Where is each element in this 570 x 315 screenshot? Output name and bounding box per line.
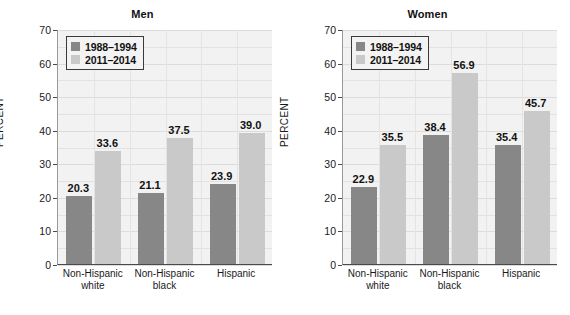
y-axis-tick-mark bbox=[338, 164, 342, 165]
y-axis-tick-label: 40 bbox=[290, 125, 336, 136]
y-axis-tick-label: 20 bbox=[5, 193, 51, 204]
legend-item[interactable]: 1988–1994 bbox=[71, 40, 137, 53]
y-axis-tick-label: 0 bbox=[5, 260, 51, 271]
legend-item-label: 2011–2014 bbox=[370, 54, 421, 66]
y-axis-tick-mark bbox=[338, 231, 342, 232]
bar-value-label: 37.5 bbox=[168, 124, 189, 136]
y-axis-tick-label: 70 bbox=[5, 25, 51, 36]
panel-title: Men bbox=[0, 8, 285, 20]
category-label-line2: black bbox=[419, 280, 479, 292]
y-axis-tick-mark bbox=[53, 231, 57, 232]
y-axis-tick-mark bbox=[53, 265, 57, 266]
bar bbox=[66, 196, 92, 264]
legend-item[interactable]: 2011–2014 bbox=[356, 53, 422, 66]
bar bbox=[167, 138, 193, 264]
y-axis-tick-label: 70 bbox=[290, 25, 336, 36]
legend-swatch-icon bbox=[356, 42, 365, 51]
chart-figure: Men PERCENT 010203040506070Non-Hispanicw… bbox=[0, 0, 570, 315]
gridline-horizontal bbox=[343, 265, 557, 266]
y-axis-tick-label: 10 bbox=[5, 226, 51, 237]
bar bbox=[351, 187, 377, 264]
bar-value-label: 38.4 bbox=[424, 121, 445, 133]
bar-value-label: 56.9 bbox=[453, 59, 474, 71]
y-axis-tick-label: 50 bbox=[5, 92, 51, 103]
y-axis-tick-mark bbox=[53, 198, 57, 199]
y-axis-title: PERCENT bbox=[0, 96, 5, 147]
y-axis-tick-mark bbox=[53, 131, 57, 132]
y-axis-tick-mark bbox=[338, 30, 342, 31]
chart-legend: 1988–19942011–2014 bbox=[351, 36, 429, 70]
y-axis-tick-mark bbox=[338, 198, 342, 199]
bar-value-label: 20.3 bbox=[68, 182, 89, 194]
bar bbox=[380, 145, 406, 264]
y-axis-tick-label: 0 bbox=[290, 260, 336, 271]
gridline-vertical bbox=[201, 30, 202, 264]
y-axis-tick-mark bbox=[338, 97, 342, 98]
category-label-line1: Non-Hispanic bbox=[63, 268, 123, 280]
category-label-line2: white bbox=[348, 280, 408, 292]
x-axis-category-label: Non-Hispanicwhite bbox=[348, 268, 408, 292]
chart-panel-men: Men PERCENT 010203040506070Non-Hispanicw… bbox=[0, 0, 285, 315]
category-label-line1: Non-Hispanic bbox=[134, 268, 194, 280]
y-axis-tick-label: 60 bbox=[5, 58, 51, 69]
legend-item[interactable]: 1988–1994 bbox=[356, 40, 422, 53]
x-axis-category-label: Hispanic bbox=[217, 268, 255, 280]
y-axis-tick-label: 40 bbox=[5, 125, 51, 136]
chart-legend: 1988–19942011–2014 bbox=[66, 36, 144, 70]
y-axis-tick-label: 30 bbox=[290, 159, 336, 170]
x-axis-category-label: Non-Hispanicwhite bbox=[63, 268, 123, 292]
bar-value-label: 39.0 bbox=[240, 119, 261, 131]
bar-value-label: 21.1 bbox=[139, 179, 160, 191]
category-label-line1: Hispanic bbox=[502, 268, 540, 280]
legend-item[interactable]: 2011–2014 bbox=[71, 53, 137, 66]
bar bbox=[95, 151, 121, 264]
category-label-line1: Non-Hispanic bbox=[348, 268, 408, 280]
y-axis-tick-label: 60 bbox=[290, 58, 336, 69]
y-axis-tick-mark bbox=[53, 97, 57, 98]
y-axis-tick-label: 50 bbox=[290, 92, 336, 103]
category-label-line1: Hispanic bbox=[217, 268, 255, 280]
bar bbox=[452, 73, 478, 264]
bar-value-label: 35.5 bbox=[382, 131, 403, 143]
legend-swatch-icon bbox=[71, 42, 80, 51]
bar bbox=[138, 193, 164, 264]
category-label-line2: black bbox=[134, 280, 194, 292]
y-axis-tick-mark bbox=[53, 164, 57, 165]
bar bbox=[495, 145, 521, 264]
bar-value-label: 33.6 bbox=[97, 137, 118, 149]
y-axis-tick-mark bbox=[53, 64, 57, 65]
bar bbox=[423, 135, 449, 264]
legend-item-label: 1988–1994 bbox=[370, 41, 422, 53]
bar bbox=[239, 133, 265, 264]
bar-value-label: 35.4 bbox=[496, 131, 517, 143]
x-axis-category-label: Non-Hispanicblack bbox=[134, 268, 194, 292]
y-axis-tick-label: 10 bbox=[290, 226, 336, 237]
y-axis-tick-label: 30 bbox=[5, 159, 51, 170]
gridline-horizontal bbox=[58, 265, 272, 266]
legend-swatch-icon bbox=[71, 55, 80, 64]
bar-value-label: 22.9 bbox=[353, 173, 374, 185]
y-axis-title: PERCENT bbox=[279, 96, 290, 147]
x-axis-category-label: Hispanic bbox=[502, 268, 540, 280]
category-label-line1: Non-Hispanic bbox=[419, 268, 479, 280]
legend-item-label: 2011–2014 bbox=[85, 54, 136, 66]
y-axis-tick-mark bbox=[338, 64, 342, 65]
y-axis-tick-mark bbox=[53, 30, 57, 31]
y-axis-tick-label: 20 bbox=[290, 193, 336, 204]
legend-swatch-icon bbox=[356, 55, 365, 64]
bar bbox=[210, 184, 236, 264]
panel-title: Women bbox=[285, 8, 570, 20]
category-label-line2: white bbox=[63, 280, 123, 292]
y-axis-tick-mark bbox=[338, 265, 342, 266]
y-axis-tick-mark bbox=[338, 131, 342, 132]
bar-value-label: 23.9 bbox=[211, 170, 232, 182]
bar-value-label: 45.7 bbox=[525, 97, 546, 109]
bar bbox=[524, 111, 550, 264]
x-axis-category-label: Non-Hispanicblack bbox=[419, 268, 479, 292]
legend-item-label: 1988–1994 bbox=[85, 41, 137, 53]
chart-panel-women: Women PERCENT 010203040506070Non-Hispani… bbox=[285, 0, 570, 315]
gridline-vertical bbox=[486, 30, 487, 264]
